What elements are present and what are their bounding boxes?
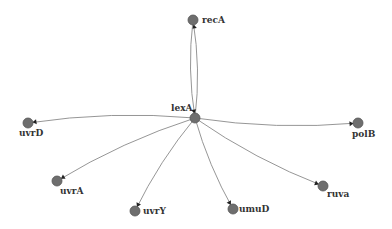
node-label-polB: polB xyxy=(352,129,375,139)
node-polB[interactable] xyxy=(353,118,363,128)
edge-lexA-uvrD xyxy=(28,115,195,123)
node-label-uvrY: uvrY xyxy=(143,206,166,216)
edge-lexA-uvrY xyxy=(135,118,195,211)
network-diagram: recAlexAuvrDuvrAuvrYumuDruvapolB xyxy=(0,0,392,229)
node-recA[interactable] xyxy=(188,15,198,25)
node-label-umuD: umuD xyxy=(239,204,269,214)
node-uvrA[interactable] xyxy=(52,176,62,186)
edge-lexA-ruva xyxy=(195,118,323,186)
edge-lexA-polB xyxy=(195,118,358,126)
node-uvrY[interactable] xyxy=(130,206,140,216)
node-label-recA: recA xyxy=(202,15,225,25)
edge-lexA-recA xyxy=(193,20,198,118)
node-label-uvrA: uvrA xyxy=(60,186,84,196)
node-uvrD[interactable] xyxy=(23,118,33,128)
edge-lexA-umuD xyxy=(195,118,233,209)
node-label-ruva: ruva xyxy=(327,189,349,199)
edge-lexA-uvrA xyxy=(57,118,195,181)
node-label-lexA: lexA xyxy=(171,103,193,113)
node-umuD[interactable] xyxy=(228,204,238,214)
node-label-uvrD: uvrD xyxy=(19,128,43,138)
node-lexA[interactable] xyxy=(190,113,200,123)
